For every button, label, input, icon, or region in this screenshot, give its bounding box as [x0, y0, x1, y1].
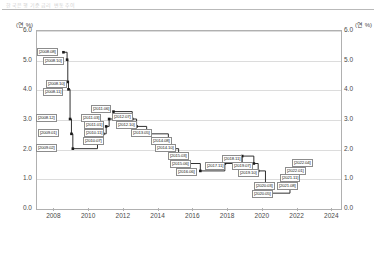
y-axis-tick-label-right: 1.0: [344, 174, 370, 181]
data-point-annotation: [2011.06]: [91, 105, 111, 113]
x-axis-tick-mark: [158, 208, 159, 211]
x-axis-tick-label: 2010: [81, 212, 95, 219]
data-point-annotation: [2009.01]: [38, 129, 59, 137]
data-point-annotation: [2008.08]: [37, 48, 58, 56]
data-point-annotation: [2011.01]: [84, 121, 104, 129]
data-point-marker: [253, 162, 256, 165]
y-axis-tick-label-right: 6.0: [344, 26, 370, 33]
data-point-marker: [199, 170, 202, 173]
data-point-marker: [66, 81, 69, 84]
y-axis-tick-label-right: 2.0: [344, 145, 370, 152]
y-axis-tick-label-left: 3.0: [6, 115, 32, 122]
x-axis-tick-mark: [297, 208, 298, 211]
data-point-annotation: [2010.11]: [84, 129, 104, 137]
data-point-marker: [69, 118, 72, 121]
data-point-annotation: [2020.03]: [254, 182, 275, 190]
data-point-annotation: [2016.06]: [176, 168, 197, 176]
data-point-marker: [67, 88, 70, 91]
data-point-marker: [62, 51, 65, 54]
y-axis-tick-label-right: 0.0: [344, 204, 370, 211]
data-point-annotation: [2008.10]: [43, 57, 64, 65]
x-axis-tick-mark: [123, 208, 124, 211]
data-point-annotation: [2022.01]: [285, 167, 306, 175]
y-axis-tick-label-left: 5.0: [6, 56, 32, 63]
data-point-annotation: [2013.05]: [131, 129, 152, 137]
x-axis-tick-mark: [262, 208, 263, 211]
x-axis-tick-mark: [227, 208, 228, 211]
data-point-annotation: [2015.03]: [168, 152, 189, 160]
x-axis-tick-label: 2008: [46, 212, 60, 219]
chart-page: 한국은행 기준금리 변동추이 (연 %) (연 %) 6.05.04.03.02…: [0, 0, 380, 254]
y-axis-tick-label-right: 5.0: [344, 56, 370, 63]
y-axis-tick-label-left: 2.0: [6, 145, 32, 152]
x-axis-tick-label: 2016: [185, 212, 199, 219]
data-point-annotation: [2021.08]: [277, 182, 298, 190]
x-axis-tick-label: 2022: [289, 212, 303, 219]
y-axis-tick-label-left: 0.0: [6, 204, 32, 211]
data-point-marker: [108, 118, 111, 121]
data-point-annotation: [2019.10]: [238, 169, 259, 177]
data-point-annotation: [2011.03]: [81, 114, 101, 122]
data-point-annotation: [2022.04]: [292, 159, 313, 167]
y-axis-tick-label-right: 3.0: [344, 115, 370, 122]
y-axis-tick-label-left: 1.0: [6, 174, 32, 181]
data-point-marker: [70, 133, 73, 136]
data-point-annotation: [2008.11]: [43, 88, 63, 96]
y-axis-tick-label-left: 6.0: [6, 26, 32, 33]
x-axis-tick-mark: [331, 208, 332, 211]
data-point-marker: [66, 58, 69, 61]
page-header-strip: 한국은행 기준금리 변동추이: [0, 0, 380, 12]
data-point-annotation: [2015.06]: [170, 160, 191, 168]
data-point-annotation: [2021.11]: [280, 174, 300, 182]
x-axis-tick-label: 2024: [324, 212, 338, 219]
data-point-annotation: [2017.11]: [205, 162, 225, 170]
data-point-annotation: [2012.07]: [112, 113, 133, 121]
x-axis-tick-label: 2020: [255, 212, 269, 219]
data-point-annotation: [2008.10]: [46, 80, 67, 88]
data-point-annotation: [2020.05]: [252, 190, 273, 198]
header-divider: [2, 9, 374, 10]
y-axis-tick-label-right: 4.0: [344, 85, 370, 92]
x-axis-tick-mark: [53, 208, 54, 211]
x-axis-tick-label: 2012: [116, 212, 130, 219]
data-point-annotation: [2008.12]: [36, 114, 57, 122]
x-axis-tick-label: 2018: [220, 212, 234, 219]
header-ghost-text: 한국은행 기준금리 변동추이: [6, 1, 76, 8]
data-point-annotation: [2009.02]: [36, 144, 57, 152]
x-axis-tick-mark: [88, 208, 89, 211]
data-point-annotation: [2010.07]: [83, 137, 104, 145]
y-axis-tick-label-left: 4.0: [6, 85, 32, 92]
data-point-marker: [105, 125, 108, 128]
data-point-marker: [72, 147, 75, 150]
x-axis-tick-label: 2014: [150, 212, 164, 219]
data-point-annotation: [2012.10]: [116, 121, 137, 129]
data-point-annotation: [2014.10]: [155, 144, 176, 152]
x-axis-tick-mark: [192, 208, 193, 211]
